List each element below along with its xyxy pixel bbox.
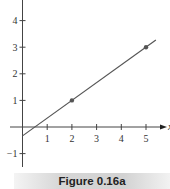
x-axis-arrow [160,125,167,130]
x-tick-label: 4 [119,133,124,144]
data-point [144,45,148,49]
y-tick-label: −1 [7,148,18,159]
data-point [70,98,74,102]
ticks: 12345−11234 [7,15,149,159]
chart: x 12345−11234 [0,0,170,170]
y-tick-label: 4 [13,15,18,26]
series [23,40,156,136]
figure-caption: Figure 0.16a [14,173,170,189]
x-tick-label: 3 [94,133,99,144]
y-tick-label: 2 [13,68,18,79]
x-tick-label: 5 [144,133,149,144]
x-axis-label: x [167,121,170,132]
x-tick-label: 1 [45,133,50,144]
series-line [23,40,156,136]
y-tick-label: 1 [13,95,18,106]
x-tick-label: 2 [69,133,74,144]
y-tick-label: 3 [13,42,18,53]
